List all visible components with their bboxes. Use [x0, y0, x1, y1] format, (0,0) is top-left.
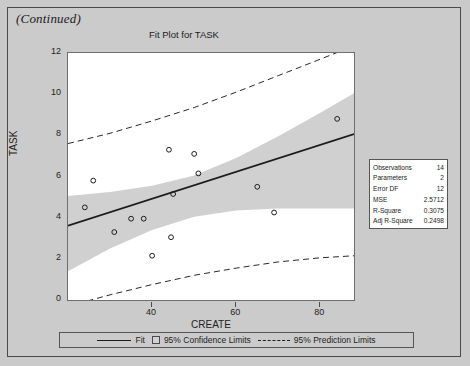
statistic-value: 14	[437, 163, 444, 173]
fit-plot-figure: Fit Plot for TASK TASK 024681012 406080 …	[14, 26, 454, 352]
fit-line-swatch	[97, 340, 131, 341]
statistic-value: 2	[440, 173, 444, 183]
statistic-row: Observations14	[370, 162, 447, 173]
statistic-row: Parameters2	[370, 173, 447, 184]
statistic-label: Observations	[373, 163, 412, 173]
plot-canvas	[68, 53, 354, 300]
statistic-row: MSE2.5712	[370, 194, 447, 205]
y-tick-label: 2	[35, 253, 61, 262]
statistic-value: 2.5712	[424, 195, 444, 205]
statistic-label: R-Square	[373, 206, 401, 216]
statistic-value: 12	[437, 184, 444, 194]
statistic-value: 0.2498	[424, 216, 444, 226]
prediction-line-swatch	[258, 340, 290, 341]
data-point	[91, 178, 96, 183]
x-tick-label: 80	[304, 307, 334, 317]
data-point	[192, 151, 197, 156]
x-tick-mark	[319, 302, 320, 307]
statistic-row: Error DF12	[370, 183, 447, 194]
data-point	[169, 235, 174, 240]
chart-legend: Fit 95% Confidence Limits 95% Prediction…	[59, 332, 414, 348]
statistic-row: R-Square0.3075	[370, 205, 447, 216]
y-tick-label: 4	[35, 212, 61, 221]
legend-item-fit: Fit	[97, 335, 144, 345]
legend-item-confidence: 95% Confidence Limits	[152, 335, 251, 345]
legend-label-prediction: 95% Prediction Limits	[294, 335, 376, 345]
prediction-limit-lower	[68, 256, 354, 300]
confidence-band-swatch	[152, 336, 160, 344]
x-tick-label: 40	[136, 307, 166, 317]
data-point	[167, 147, 172, 152]
statistic-value: 0.3075	[424, 206, 444, 216]
statistics-box: Observations14Parameters2Error DF12MSE2.…	[369, 159, 448, 229]
legend-label-confidence: 95% Confidence Limits	[164, 335, 251, 345]
y-tick-label: 10	[35, 88, 61, 97]
data-point	[272, 210, 277, 215]
x-tick-mark	[151, 302, 152, 307]
y-axis-ticks: 024681012	[33, 52, 61, 301]
y-tick-label: 8	[35, 129, 61, 138]
page-root: (Continued) Fit Plot for TASK TASK 02468…	[0, 0, 470, 366]
statistic-label: Parameters	[373, 173, 407, 183]
y-axis-title: TASK	[8, 131, 19, 156]
x-axis-title: CREATE	[67, 319, 355, 330]
legend-label-fit: Fit	[135, 335, 144, 345]
chart-title: Fit Plot for TASK	[14, 29, 354, 40]
statistic-label: Adj R-Square	[373, 216, 413, 226]
continued-label: (Continued)	[16, 11, 81, 27]
y-tick-label: 0	[35, 294, 61, 303]
x-tick-mark	[235, 302, 236, 307]
statistic-label: MSE	[373, 195, 387, 205]
y-tick-label: 6	[35, 171, 61, 180]
y-tick-label: 12	[35, 47, 61, 56]
statistic-row: Adj R-Square0.2498	[370, 216, 447, 227]
data-point	[150, 253, 155, 258]
x-tick-label: 60	[220, 307, 250, 317]
plot-area	[67, 52, 355, 301]
legend-item-prediction: 95% Prediction Limits	[258, 335, 376, 345]
statistic-label: Error DF	[373, 184, 398, 194]
confidence-band	[68, 93, 354, 271]
